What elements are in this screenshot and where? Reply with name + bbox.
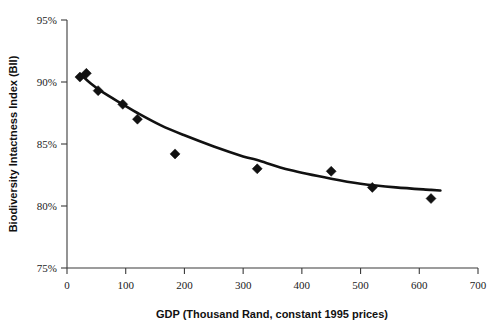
data-point-marker [170,149,180,159]
x-axis-tick-label: 200 [176,279,193,291]
data-point-marker [426,194,436,204]
y-axis-title: Biodiversity Intactness Index (BII) [7,55,19,232]
y-axis-tick-group: 75%80%85%90%95% [37,14,67,274]
fitted-curve [81,75,440,191]
x-axis-tick-label: 400 [294,279,311,291]
x-axis-title: GDP (Thousand Rand, constant 1995 prices… [156,308,388,320]
x-axis-tick-label: 700 [470,279,487,291]
x-axis-tick-label: 100 [117,279,134,291]
y-axis-tick-label: 85% [37,138,57,150]
x-axis-tick-label: 0 [64,279,70,291]
x-axis-tick-label: 300 [235,279,252,291]
y-axis-tick-label: 90% [37,76,57,88]
data-point-group [75,68,436,203]
x-axis-tick-group: 0100200300400500600700 [64,268,487,291]
data-point-marker [252,164,262,174]
data-point-marker [326,166,336,176]
y-axis-tick-label: 95% [37,14,57,26]
chart-container: 75%80%85%90%95% 0100200300400500600700 G… [0,0,497,325]
y-axis-tick-label: 75% [37,262,57,274]
scatter-plot: 75%80%85%90%95% 0100200300400500600700 G… [0,0,497,325]
x-axis-tick-label: 600 [411,279,428,291]
y-axis-tick-label: 80% [37,200,57,212]
x-axis-tick-label: 500 [352,279,369,291]
